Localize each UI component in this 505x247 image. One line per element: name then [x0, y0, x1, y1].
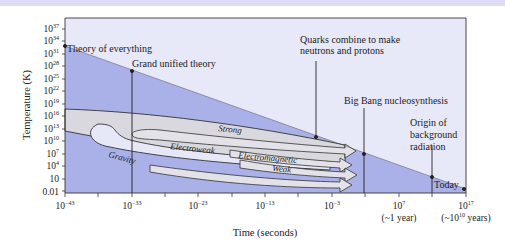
svg-text:1025: 1025 [44, 73, 60, 84]
svg-text:10−13: 10−13 [256, 200, 275, 211]
event-origin-line2: background [410, 129, 457, 140]
svg-text:1034: 1034 [44, 35, 60, 46]
svg-text:1037: 1037 [44, 23, 60, 34]
cosmic-history-diagram: 1037 1034 1031 1028 1025 1022 1019 1016 … [0, 0, 505, 247]
event-quarks-line2: neutrons and protons [300, 45, 384, 56]
event-theory-of-everything: Theory of everything [67, 43, 152, 54]
y-axis-title: Temperature (K) [21, 69, 33, 140]
svg-text:0.01: 0.01 [42, 187, 59, 197]
svg-text:107: 107 [393, 200, 406, 211]
x-ticks [65, 193, 466, 197]
svg-text:(~1010 years): (~1010 years) [441, 212, 490, 224]
svg-text:(~1 year): (~1 year) [382, 213, 417, 224]
svg-text:10−23: 10−23 [189, 200, 208, 211]
force-weak: Weak [272, 163, 293, 175]
svg-text:1017: 1017 [458, 200, 474, 211]
event-origin-line3: radiation [410, 141, 446, 152]
svg-text:1028: 1028 [44, 60, 60, 71]
svg-text:10: 10 [50, 174, 60, 184]
svg-text:107: 107 [47, 148, 60, 159]
svg-text:1031: 1031 [44, 48, 60, 59]
svg-text:10−33: 10−33 [123, 200, 142, 211]
x-axis-title: Time (seconds) [233, 227, 298, 239]
y-tick-labels: 1037 1034 1031 1028 1025 1022 1019 1016 … [42, 23, 59, 197]
svg-text:10−43: 10−43 [56, 200, 75, 211]
event-grand-unified-theory: Grand unified theory [132, 58, 216, 69]
event-origin-line1: Origin of [410, 117, 448, 128]
svg-text:104: 104 [47, 160, 60, 171]
event-nucleosynthesis: Big Bang nucleosynthesis [344, 95, 448, 106]
svg-text:1010: 1010 [44, 135, 60, 146]
svg-text:10−3: 10−3 [324, 200, 340, 211]
svg-text:1016: 1016 [44, 110, 60, 121]
x-tick-labels: 10−43 10−33 10−23 10−13 10−3 107 (~1 yea… [56, 200, 491, 224]
svg-text:1019: 1019 [44, 98, 60, 109]
svg-text:1013: 1013 [44, 123, 60, 134]
event-today: Today [434, 179, 459, 190]
event-quarks-line1: Quarks combine to make [300, 34, 401, 45]
svg-text:1022: 1022 [44, 85, 60, 96]
